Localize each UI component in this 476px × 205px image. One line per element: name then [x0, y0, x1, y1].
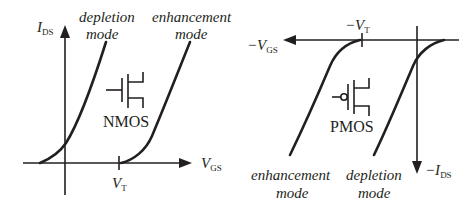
pmos-depletion-label-line2: mode [358, 185, 391, 201]
pmos-threshold-label: −VT [345, 17, 370, 35]
nmos-device-label: NMOS [103, 113, 149, 130]
pmos-y-axis-arrow-icon [412, 161, 422, 174]
pmos-x-axis-arrow-icon [283, 35, 296, 45]
nmos-depletion-label-line1: depletion [79, 9, 135, 25]
nmos-y-axis-label: IDS [36, 19, 54, 37]
nmos-y-axis-arrow-icon [60, 25, 70, 38]
nmos-x-axis-arrow-icon [179, 158, 192, 168]
pmos-x-axis-label: −VGS [247, 37, 278, 55]
pmos-transistor-icon [332, 78, 369, 116]
pmos-enhancement-label-line1: enhancement [251, 167, 331, 183]
nmos-enhancement-curve [121, 42, 190, 163]
pmos-panel: −VGS −VT −IDS PMOS enhancement mode depl… [247, 17, 459, 201]
nmos-depletion-label-line2: mode [86, 26, 119, 42]
nmos-threshold-label: VT [112, 175, 127, 193]
pmos-enhancement-label-line2: mode [276, 185, 309, 201]
mosfet-transfer-characteristics-diagram: IDS VGS VT NMOS depletion mode enhanceme… [0, 0, 476, 205]
pmos-device-label: PMOS [330, 118, 374, 135]
nmos-x-axis-label: VGS [201, 155, 222, 173]
pmos-depletion-curve [374, 40, 444, 155]
nmos-depletion-curve [40, 42, 106, 163]
nmos-transistor-icon [106, 72, 143, 108]
nmos-enhancement-label-line2: mode [175, 26, 208, 42]
pmos-depletion-label-line1: depletion [346, 167, 402, 183]
nmos-panel: IDS VGS VT NMOS depletion mode enhanceme… [23, 9, 232, 195]
pmos-y-axis-label: −IDS [425, 162, 452, 180]
nmos-enhancement-label-line1: enhancement [152, 9, 232, 25]
pmos-enhancement-curve [290, 40, 360, 155]
